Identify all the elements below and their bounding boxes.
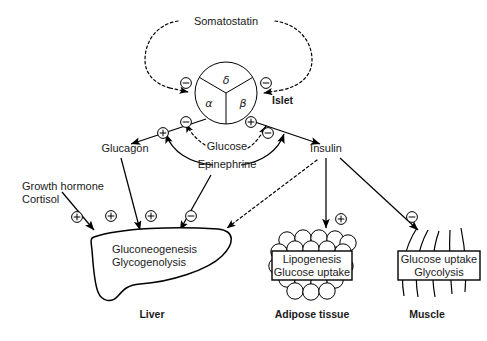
somatostatin-right-arc <box>275 21 312 90</box>
sign-marker-gh-cortisol-liver <box>72 212 83 223</box>
delta-cell-symbol: δ <box>223 74 230 87</box>
muscle-process-2: Glycolysis <box>414 266 464 278</box>
sign-marker-epinephrine-liver <box>146 211 157 222</box>
sign-marker-somatostatin-beta <box>261 78 272 89</box>
sign-marker-somatostatin-alpha <box>181 78 192 89</box>
somatostatin-to-beta-arrow <box>264 90 282 93</box>
adipose-process-2: Glucose uptake <box>274 266 350 278</box>
beta-cell-symbol: β <box>238 97 246 110</box>
muscle-group: Glucose uptake Glycolysis <box>398 228 480 297</box>
glucagon-to-liver-arrow <box>121 158 140 230</box>
growth-hormone-label: Growth hormone <box>22 180 104 192</box>
sign-marker-insulin-adipose <box>336 214 347 225</box>
insulin-to-muscle-arrow <box>340 158 418 230</box>
adipose-tissue-label: Adipose tissue <box>275 308 350 320</box>
insulin-label: Insulin <box>310 142 342 154</box>
glucose-label: Glucose <box>207 140 247 152</box>
liver-process-2: Glycogenolysis <box>112 256 186 268</box>
epinephrine-label: Epinephrine <box>198 158 257 170</box>
sign-marker-epinephrine-alpha <box>158 128 169 139</box>
glucagon-label: Glucagon <box>101 142 148 154</box>
organ-sign-markers <box>72 211 418 225</box>
gh-cortisol-to-liver-arrow <box>62 192 94 230</box>
insulin-to-liver-arrow <box>227 160 317 228</box>
somatostatin-left-arc <box>145 21 178 88</box>
liver-label: Liver <box>139 308 164 320</box>
islet-group: δ α β <box>195 62 257 124</box>
adipose-process-1: Lipogenesis <box>283 253 342 265</box>
sign-marker-glucose-beta <box>263 128 274 139</box>
figure-canvas: Somatostatin δ α β Islet <box>0 0 487 341</box>
sign-marker-epinephrine-beta <box>246 117 257 128</box>
muscle-process-1: Glucose uptake <box>401 253 477 265</box>
sign-marker-insulin-liver <box>186 211 197 222</box>
cortisol-label: Cortisol <box>22 193 59 205</box>
somatostatin-label: Somatostatin <box>194 15 258 27</box>
sign-marker-glucose-alpha <box>181 117 192 128</box>
liver-process-1: Gluconeogenesis <box>112 243 198 255</box>
muscle-label: Muscle <box>409 308 445 320</box>
alpha-cell-symbol: α <box>205 97 213 110</box>
glucose-to-beta-arrow <box>248 126 266 148</box>
sign-marker-insulin-muscle <box>407 212 418 223</box>
sign-marker-glucagon-liver <box>106 211 117 222</box>
adipose-tissue-group: Lipogenesis Glucose uptake <box>269 230 356 300</box>
liver-group: Gluconeogenesis Glycogenolysis <box>91 228 231 301</box>
glucose-homeostasis-diagram: Somatostatin δ α β Islet <box>0 0 487 341</box>
epinephrine-to-liver-arrow <box>180 175 211 230</box>
islet-label: Islet <box>272 94 294 106</box>
